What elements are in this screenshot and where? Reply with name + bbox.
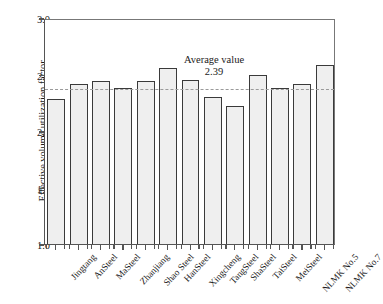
x-tick-mark-minor — [243, 245, 244, 249]
bar-shasteel — [226, 106, 244, 244]
bar-xingcheng — [182, 80, 200, 244]
x-tick-mark-minor — [64, 245, 65, 249]
x-tick-mark-minor — [270, 245, 271, 249]
x-tick-mark-minor — [69, 245, 70, 249]
bar-jingtang — [47, 99, 65, 244]
x-tick-mark-minor — [203, 245, 204, 249]
x-tick-mark-minor — [46, 245, 47, 249]
x-label-jingtang: Jingtang — [69, 252, 98, 282]
x-tick-mark-minor — [91, 245, 92, 249]
x-tick-mark-minor — [292, 245, 293, 249]
x-tick-mark-minor — [176, 245, 177, 249]
average-value-line — [45, 89, 334, 90]
x-tick-mark — [122, 245, 123, 250]
bar-shao-steel — [137, 81, 155, 244]
bar-hansteel — [159, 68, 177, 244]
x-tick-mark-minor — [310, 245, 311, 249]
x-tick-mark-minor — [288, 245, 289, 249]
bar-taisteel — [249, 75, 267, 245]
average-value-label: Average value — [184, 54, 244, 65]
bar-nlmk-no-5 — [293, 84, 311, 244]
x-tick-mark — [324, 245, 325, 250]
bar-nlmk-no-7 — [316, 65, 334, 244]
average-value-annotation: Average value 2.39 — [184, 54, 244, 78]
x-tick-mark — [55, 245, 56, 250]
bar-meisteel — [271, 88, 289, 244]
x-label-masteel: MaSteel — [114, 252, 142, 281]
average-value-number: 2.39 — [184, 66, 244, 78]
plot-area: Average value 2.39 — [44, 19, 335, 245]
x-tick-mark-minor — [158, 245, 159, 249]
bar-ansteel — [70, 84, 88, 244]
x-tick-mark-minor — [113, 245, 114, 249]
x-tick-mark-minor — [315, 245, 316, 249]
x-tick-mark-minor — [333, 245, 334, 249]
x-tick-mark-minor — [87, 245, 88, 249]
x-tick-mark-minor — [266, 245, 267, 249]
bar-zhanjiang — [114, 88, 132, 244]
x-tick-mark-minor — [109, 245, 110, 249]
x-tick-mark — [145, 245, 146, 250]
x-tick-mark — [78, 245, 79, 250]
x-tick-mark — [212, 245, 213, 250]
x-tick-mark — [301, 245, 302, 250]
bar-masteel — [92, 81, 110, 244]
x-tick-mark — [257, 245, 258, 250]
x-tick-mark — [167, 245, 168, 250]
x-tick-mark-minor — [154, 245, 155, 249]
x-tick-mark-minor — [181, 245, 182, 249]
x-label-meisteel: MeiSteel — [294, 252, 324, 283]
x-tick-mark-minor — [136, 245, 137, 249]
x-tick-mark — [100, 245, 101, 250]
x-tick-mark-minor — [248, 245, 249, 249]
x-tick-mark-minor — [225, 245, 226, 249]
x-tick-mark — [234, 245, 235, 250]
x-tick-mark-minor — [221, 245, 222, 249]
x-tick-mark — [190, 245, 191, 250]
x-tick-mark — [279, 245, 280, 250]
bar-tangsteel — [204, 97, 222, 244]
x-tick-mark-minor — [131, 245, 132, 249]
x-tick-mark-minor — [198, 245, 199, 249]
